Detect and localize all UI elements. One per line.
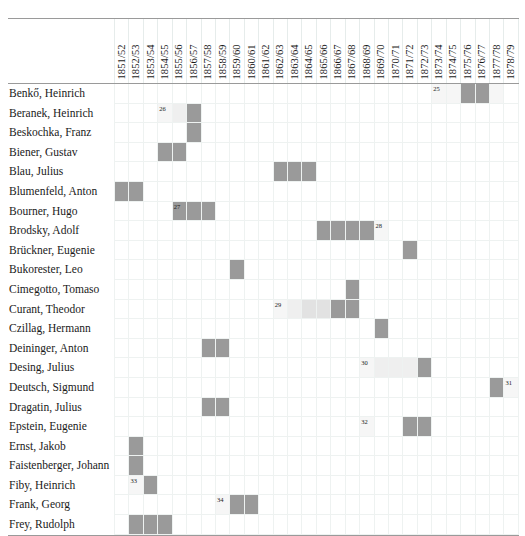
empty-cell	[431, 476, 445, 496]
empty-cell	[388, 515, 402, 535]
empty-cell	[258, 221, 272, 241]
empty-cell	[316, 398, 330, 418]
empty-cell	[359, 319, 373, 339]
empty-cell	[114, 104, 128, 124]
empty-cell	[273, 358, 287, 378]
empty-cell	[143, 417, 157, 437]
row-cells	[114, 339, 519, 359]
empty-cell	[388, 319, 402, 339]
empty-cell	[186, 182, 200, 202]
empty-cell	[460, 378, 474, 398]
empty-cell	[388, 300, 402, 320]
activity-cell: 27	[172, 202, 186, 222]
column-header-1877-78: 1877/78	[489, 19, 503, 83]
empty-cell	[330, 417, 344, 437]
empty-cell	[330, 162, 344, 182]
activity-cell	[301, 300, 315, 320]
empty-cell	[316, 495, 330, 515]
empty-cell	[128, 104, 142, 124]
empty-cell	[287, 104, 301, 124]
empty-cell	[503, 84, 518, 104]
empty-cell	[388, 104, 402, 124]
empty-cell	[489, 241, 503, 261]
empty-cell	[460, 339, 474, 359]
empty-cell	[460, 476, 474, 496]
empty-cell	[114, 495, 128, 515]
header-year-columns: 1851/521852/531853/541854/551855/561856/…	[114, 19, 519, 83]
empty-cell	[114, 123, 128, 143]
empty-cell	[374, 495, 388, 515]
empty-cell	[503, 417, 518, 437]
empty-cell	[172, 280, 186, 300]
column-header-label: 1854/55	[160, 44, 171, 79]
empty-cell	[258, 417, 272, 437]
footnote-marker: 32	[361, 418, 368, 425]
empty-cell	[460, 260, 474, 280]
activity-cell	[157, 515, 171, 535]
footnote-marker: 30	[361, 359, 368, 366]
empty-cell	[215, 123, 229, 143]
activity-cell	[402, 358, 416, 378]
empty-cell	[402, 123, 416, 143]
empty-cell	[143, 182, 157, 202]
empty-cell	[229, 437, 243, 457]
empty-cell	[172, 162, 186, 182]
row-label-person: Cimegotto, Tomaso	[8, 280, 114, 300]
empty-cell	[431, 280, 445, 300]
empty-cell	[287, 437, 301, 457]
empty-cell	[489, 162, 503, 182]
row-label-person: Beranek, Heinrich	[8, 104, 114, 124]
empty-cell	[431, 456, 445, 476]
empty-cell	[215, 417, 229, 437]
empty-cell	[330, 339, 344, 359]
empty-cell	[301, 515, 315, 535]
empty-cell	[244, 437, 258, 457]
empty-cell	[301, 280, 315, 300]
empty-cell	[489, 280, 503, 300]
column-header-label: 1870/71	[390, 44, 401, 79]
empty-cell	[244, 162, 258, 182]
row-cells	[114, 162, 519, 182]
empty-cell	[114, 260, 128, 280]
empty-cell	[446, 495, 460, 515]
empty-cell	[128, 358, 142, 378]
empty-cell	[446, 515, 460, 535]
empty-cell	[186, 358, 200, 378]
empty-cell	[374, 123, 388, 143]
empty-cell	[388, 162, 402, 182]
activity-cell	[402, 241, 416, 261]
empty-cell	[114, 300, 128, 320]
empty-cell	[287, 123, 301, 143]
empty-cell	[172, 241, 186, 261]
empty-cell	[157, 476, 171, 496]
empty-cell	[446, 143, 460, 163]
empty-cell	[402, 378, 416, 398]
empty-cell	[128, 143, 142, 163]
empty-cell	[172, 456, 186, 476]
empty-cell	[143, 339, 157, 359]
empty-cell	[215, 182, 229, 202]
table-row: Deininger, Anton	[8, 339, 519, 359]
empty-cell	[431, 162, 445, 182]
empty-cell	[244, 84, 258, 104]
empty-cell	[229, 123, 243, 143]
empty-cell	[446, 358, 460, 378]
empty-cell	[273, 182, 287, 202]
activity-cell	[186, 123, 200, 143]
column-header-label: 1873/74	[434, 44, 445, 79]
empty-cell	[388, 221, 402, 241]
empty-cell	[330, 476, 344, 496]
empty-cell	[215, 515, 229, 535]
activity-cell	[128, 456, 142, 476]
empty-cell	[446, 339, 460, 359]
empty-cell	[201, 280, 215, 300]
table-row: Frey, Rudolph	[8, 515, 519, 535]
empty-cell	[244, 358, 258, 378]
table-row: Benkő, Heinrich25	[8, 84, 519, 104]
empty-cell	[201, 319, 215, 339]
empty-cell	[359, 456, 373, 476]
empty-cell	[201, 456, 215, 476]
empty-cell	[287, 260, 301, 280]
column-header-1864-65: 1864/65	[301, 19, 315, 83]
empty-cell	[244, 378, 258, 398]
